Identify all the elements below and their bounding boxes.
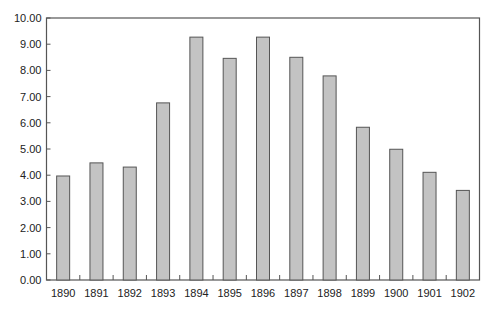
bar-1898 [323,76,336,280]
y-tick-label: 9.00 [20,38,41,50]
bar-1899 [356,127,369,280]
x-tick-label: 1892 [118,287,142,299]
bar-1900 [390,149,403,280]
bar-1901 [423,172,436,280]
bar-1892 [123,167,136,280]
bar-1902 [456,190,469,280]
bars [57,37,470,280]
y-tick-label: 5.00 [20,143,41,155]
x-tick-label: 1902 [451,287,475,299]
y-tick-label: 6.00 [20,117,41,129]
y-tick-label: 3.00 [20,195,41,207]
bar-1890 [57,176,70,280]
x-tick-label: 1891 [84,287,108,299]
y-tick-label: 2.00 [20,222,41,234]
bar-1894 [190,37,203,280]
bar-1896 [257,37,270,280]
x-tick-label: 1893 [151,287,175,299]
y-axis: 0.001.002.003.004.005.006.007.008.009.00… [14,12,51,286]
x-tick-label: 1894 [184,287,208,299]
y-tick-label: 4.00 [20,169,41,181]
x-tick-label: 1897 [284,287,308,299]
x-tick-label: 1898 [317,287,341,299]
x-tick-label: 1899 [351,287,375,299]
x-tick-label: 1895 [217,287,241,299]
bar-1895 [223,58,236,280]
y-tick-label: 7.00 [20,91,41,103]
y-tick-label: 10.00 [14,12,42,24]
y-tick-label: 1.00 [20,248,41,260]
x-tick-label: 1890 [51,287,75,299]
y-tick-label: 0.00 [20,274,41,286]
y-tick-label: 8.00 [20,64,41,76]
bar-1897 [290,57,303,280]
x-tick-label: 1896 [251,287,275,299]
bar-chart: 0.001.002.003.004.005.006.007.008.009.00… [0,0,491,312]
x-tick-label: 1901 [417,287,441,299]
bar-1893 [157,103,170,280]
bar-1891 [90,163,103,280]
x-tick-label: 1900 [384,287,408,299]
